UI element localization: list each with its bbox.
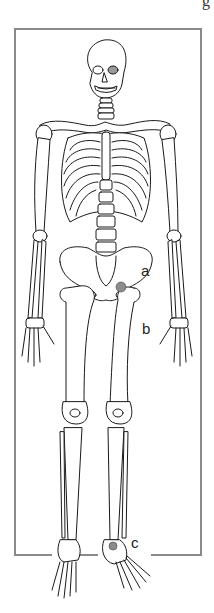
skeleton-figure [0,0,214,613]
left-arm [28,138,50,318]
right-lower-leg [108,428,128,540]
hip-joint-marker [116,282,126,292]
left-femur [60,286,94,405]
label-c-ankle: c [131,535,139,550]
label-b-femur: b [142,321,150,336]
knees [62,402,132,424]
cropped-heading-text: g [202,0,210,10]
cervical-spine [98,98,114,119]
skeleton-diagram: g [0,0,214,613]
right-hand [160,318,192,366]
skull [88,40,126,98]
left-hand [22,318,54,366]
left-lower-leg [60,428,82,540]
right-arm [162,138,186,318]
left-foot [52,540,80,598]
label-a-hip: a [141,263,149,278]
right-femur [110,287,140,405]
ankle-joint-marker [109,542,117,550]
